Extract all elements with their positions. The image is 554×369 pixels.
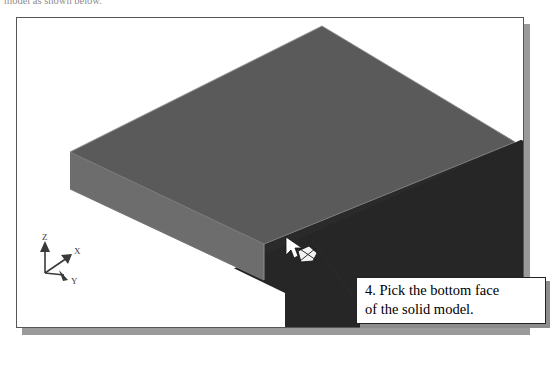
triad-axis-y-label: Y (71, 276, 78, 286)
callout-line-2: of the solid model. (365, 300, 545, 319)
triad-axis-x-label: X (74, 246, 81, 256)
triad-axis-x-arrow (61, 254, 72, 264)
coordinate-triad-icon: Z X Y (30, 233, 92, 289)
callout-line-1: 4. Pick the bottom face (365, 281, 545, 300)
top-caption-text: model as shown below. (4, 0, 254, 4)
triad-axis-y-arrow (59, 270, 68, 281)
triad-axis-x-line (45, 258, 67, 273)
callout-box: 4. Pick the bottom face of the solid mod… (356, 277, 546, 324)
triad-axis-z-label: Z (42, 233, 48, 242)
triad-axis-z-arrow (40, 241, 50, 252)
